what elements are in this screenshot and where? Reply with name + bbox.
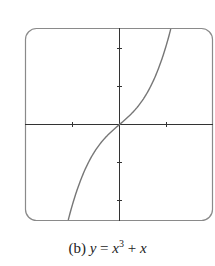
graph: [0, 0, 215, 236]
caption-equals: =: [100, 240, 108, 256]
caption-plus: +: [128, 240, 136, 256]
caption-var-x2: x: [140, 240, 147, 256]
caption-label: (b): [68, 240, 86, 256]
figure-caption: (b) y = x3 + x: [0, 240, 215, 257]
caption-var-y: y: [90, 240, 97, 256]
caption-exponent: 3: [119, 238, 124, 249]
caption-var-x: x: [112, 240, 119, 256]
